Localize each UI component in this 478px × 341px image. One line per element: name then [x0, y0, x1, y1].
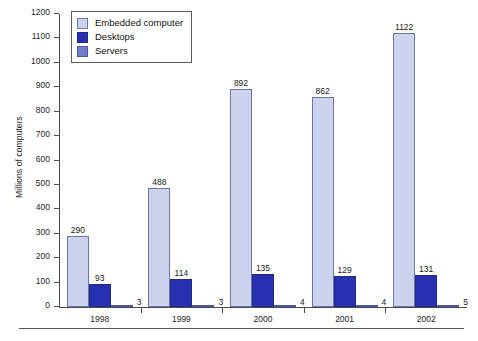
bar-value-label: 129 [338, 265, 352, 275]
chart-legend: Embedded computerDesktopsServers [71, 11, 192, 63]
y-tick-label: 700 [36, 129, 50, 139]
bar-group: 89213542000 [222, 14, 304, 307]
x-axis-line [59, 307, 467, 308]
bar-desktops[interactable]: 131 [415, 275, 437, 307]
bar-value-label: 488 [152, 177, 166, 187]
y-tick-label: 300 [36, 227, 50, 237]
bar-servers[interactable]: 4 [356, 305, 378, 307]
y-tick-label: 800 [36, 105, 50, 115]
bar-group: 112213152002 [385, 14, 467, 307]
x-category-label: 2002 [385, 314, 467, 324]
bar-servers[interactable]: 4 [274, 305, 296, 307]
bar-value-label: 114 [175, 268, 189, 278]
bar-embedded[interactable]: 862 [312, 97, 334, 307]
bar-value-label: 135 [256, 263, 270, 273]
y-tick-label: 1100 [32, 31, 50, 41]
legend-label: Servers [95, 46, 128, 56]
legend-label: Embedded computer [95, 18, 183, 28]
x-category-label: 1998 [59, 314, 141, 324]
legend-swatch-icon [77, 18, 88, 29]
bar-desktops[interactable]: 135 [252, 274, 274, 307]
bar-servers[interactable]: 3 [192, 305, 214, 307]
bar-embedded[interactable]: 488 [148, 188, 170, 307]
bottom-divider [19, 328, 464, 329]
legend-item[interactable]: Servers [77, 44, 183, 58]
y-tick-label: 1200 [31, 7, 50, 17]
y-tick-label: 400 [36, 202, 50, 212]
bar-chart-figure: Millions of computers 010020030040050060… [0, 0, 478, 341]
bar-servers[interactable]: 5 [437, 305, 459, 307]
y-tick-label: 1000 [31, 56, 50, 66]
legend-item[interactable]: Desktops [77, 30, 183, 44]
legend-label: Desktops [95, 32, 135, 42]
legend-item[interactable]: Embedded computer [77, 16, 183, 30]
bar-desktops[interactable]: 93 [89, 284, 111, 307]
bar-value-label: 862 [316, 86, 330, 96]
bar-value-label: 131 [419, 264, 433, 274]
x-tick [141, 308, 142, 313]
y-tick-label: 900 [36, 80, 50, 90]
bar-embedded[interactable]: 892 [230, 89, 252, 307]
y-tick-label: 100 [36, 276, 50, 286]
bar-desktops[interactable]: 114 [170, 279, 192, 307]
x-tick [304, 308, 305, 313]
bar-embedded[interactable]: 290 [67, 236, 89, 307]
bar-value-label: 93 [95, 273, 104, 283]
bar-group: 86212942001 [304, 14, 386, 307]
legend-swatch-icon [77, 32, 88, 43]
x-category-label: 2000 [222, 314, 304, 324]
y-tick-label: 600 [36, 154, 50, 164]
y-tick-label: 500 [36, 178, 50, 188]
legend-swatch-icon [77, 46, 88, 57]
bar-servers[interactable]: 3 [111, 305, 133, 307]
bar-desktops[interactable]: 129 [334, 276, 356, 307]
y-axis-title: Millions of computers [14, 72, 24, 242]
x-tick [222, 308, 223, 313]
x-category-label: 1999 [141, 314, 223, 324]
bar-value-label: 892 [234, 78, 248, 88]
bar-value-label: 5 [463, 297, 468, 307]
x-tick [385, 308, 386, 313]
y-tick-label: 200 [36, 251, 50, 261]
y-tick-label: 0 [45, 300, 50, 310]
bar-embedded[interactable]: 1122 [393, 33, 415, 307]
bar-value-label: 1122 [395, 22, 413, 32]
x-category-label: 2001 [304, 314, 386, 324]
bar-value-label: 290 [71, 225, 85, 235]
